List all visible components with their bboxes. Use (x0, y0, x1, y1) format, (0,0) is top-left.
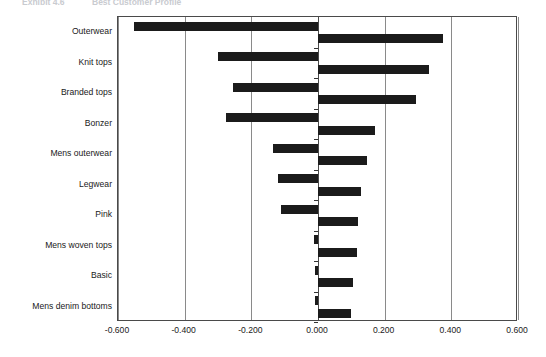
chart-title-strip: Exhibit 4.6 Best Customer Profile (0, 0, 546, 11)
bar-negative (315, 296, 318, 305)
y-axis-labels: OuterwearKnit topsBranded topsBonzerMens… (0, 16, 112, 321)
bar-positive (318, 187, 361, 196)
y-axis-label: Mens woven tops (0, 240, 112, 250)
y-axis-label: Basic (0, 270, 112, 280)
y-axis-label: Branded tops (0, 87, 112, 97)
bar-negative (226, 113, 318, 122)
x-axis-tick-label: 0.400 (440, 325, 462, 335)
x-axis-labels: -0.600-0.400-0.2000.0000.2000.4000.600 (117, 325, 517, 341)
chart-title: Best Customer Profile (92, 0, 181, 7)
bar-negative (233, 83, 318, 92)
y-axis-label: Knit tops (0, 57, 112, 67)
chart-bar-row (118, 139, 516, 170)
bar-positive (318, 248, 357, 257)
gridline (518, 17, 519, 320)
x-axis-tick-label: -0.400 (171, 325, 195, 335)
bar-negative (314, 235, 318, 244)
bar-negative (273, 144, 318, 153)
bar-positive (318, 217, 358, 226)
chart-bar-row (118, 200, 516, 231)
chart-bar-row (118, 261, 516, 292)
bar-positive (318, 309, 351, 318)
bar-positive (318, 34, 443, 43)
chart-bar-row (118, 17, 516, 48)
y-axis-label: Mens denim bottoms (0, 301, 112, 311)
bar-positive (318, 126, 375, 135)
chart-bar-row (118, 48, 516, 79)
plot-area (117, 16, 517, 321)
bar-negative (134, 22, 318, 31)
x-axis-tick-label: -0.600 (105, 325, 129, 335)
bar-positive (318, 156, 367, 165)
bar-negative (281, 205, 318, 214)
x-axis-tick-label: -0.200 (238, 325, 262, 335)
exhibit-label: Exhibit 4.6 (22, 0, 65, 7)
x-axis-tick-label: 0.600 (506, 325, 528, 335)
x-axis-tick-label: 0.000 (306, 325, 328, 335)
bar-positive (318, 65, 429, 74)
bar-negative (278, 174, 318, 183)
bar-negative (315, 266, 318, 275)
x-axis-tick-label: 0.200 (373, 325, 395, 335)
bar-positive (318, 278, 353, 287)
best-customer-profile-chart: Exhibit 4.6 Best Customer Profile Outerw… (0, 0, 546, 357)
chart-bar-row (118, 231, 516, 262)
y-axis-label: Bonzer (0, 118, 112, 128)
bar-negative (218, 52, 318, 61)
y-axis-label: Outerwear (0, 26, 112, 36)
chart-bar-row (118, 292, 516, 323)
y-axis-label: Legwear (0, 179, 112, 189)
chart-bar-row (118, 170, 516, 201)
chart-bar-row (118, 109, 516, 140)
chart-bar-row (118, 78, 516, 109)
y-axis-label: Pink (0, 209, 112, 219)
bar-positive (318, 95, 416, 104)
category-tick (314, 322, 318, 323)
y-axis-label: Mens outerwear (0, 148, 112, 158)
